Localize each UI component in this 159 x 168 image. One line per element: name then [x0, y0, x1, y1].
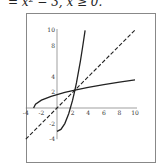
x-tick-label: 4 — [86, 109, 90, 116]
x-tick-label: 2 — [71, 109, 75, 116]
series-line — [26, 30, 135, 139]
x-tick-label: 6 — [102, 109, 106, 116]
series-line — [34, 80, 135, 108]
x-tick-label: -2 — [38, 109, 44, 116]
y-tick-label: -2 — [49, 120, 55, 127]
y-tick-label: 10 — [47, 26, 55, 33]
curves — [26, 30, 135, 139]
series-line — [57, 30, 85, 131]
x-tick-label: 8 — [117, 109, 121, 116]
x-tick-label: -4 — [23, 109, 29, 116]
chart-plot: -4-2246810-4-224810 — [0, 0, 159, 168]
x-tick-label: 10 — [131, 109, 139, 116]
y-tick-label: 8 — [51, 42, 55, 49]
y-tick-label: 4 — [51, 73, 55, 80]
y-tick-label: 2 — [51, 88, 55, 95]
y-tick-label: -4 — [49, 135, 55, 142]
